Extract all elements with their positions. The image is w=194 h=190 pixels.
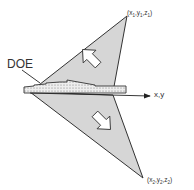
point1-label: (x1,y1,z1) [127, 9, 152, 18]
doe-label: DOE [7, 57, 33, 71]
doe-diagram: DOE x,y (x1,y1,z1) (x2,y2,z2) [0, 0, 194, 190]
lower-beam-triangle [30, 92, 143, 178]
doe-leader-line [22, 70, 40, 83]
axis-label: x,y [154, 90, 164, 99]
upper-beam-triangle [30, 16, 127, 92]
point2-label: (x2,y2,z2) [147, 176, 172, 185]
